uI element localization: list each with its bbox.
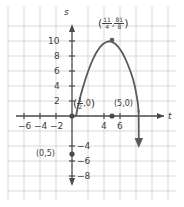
vertex-x-denominator: 4 [102,23,112,30]
root-y-value: ,0 [83,99,91,108]
root-paren-close: ) [91,97,95,110]
y-tick-10: 10 [48,37,59,46]
x-tick-4: 4 [101,122,107,131]
vertex-y-denominator: 8 [114,23,124,30]
x-tick-6: 6 [117,122,123,131]
chart-figure: s t 10 8 6 4 2 −4 −6 −8 −6 −4 −2 4 6 (11… [0,0,184,207]
root-half-label: (12,0) [73,97,95,110]
root-half-point-marker [69,113,74,118]
y-tick-6: 6 [54,67,60,76]
y-tick-8: 8 [54,52,60,61]
intercept-point-marker [69,151,74,156]
y-tick-4: 4 [54,82,60,91]
x-axis-label: t [168,112,172,121]
vertex-paren-close: ) [124,17,128,30]
root-five-point-marker [109,113,114,118]
y-tick-neg8: −8 [77,172,90,181]
vertex-point-marker [110,38,115,43]
y-axis-label: s [64,8,69,17]
y-tick-2: 2 [54,97,60,106]
vertex-label: (114,818) [98,17,128,30]
y-tick-neg4: −4 [77,142,90,151]
vertex-x-fraction: 114 [102,17,112,30]
root-five-label: (5,0) [114,100,133,108]
x-tick-neg6: −6 [18,122,31,131]
x-tick-neg4: −4 [34,122,47,131]
intercept-label: (0,5) [36,150,55,158]
y-tick-neg6: −6 [77,157,90,166]
vertex-y-fraction: 818 [114,17,124,30]
x-tick-neg2: −2 [50,122,63,131]
